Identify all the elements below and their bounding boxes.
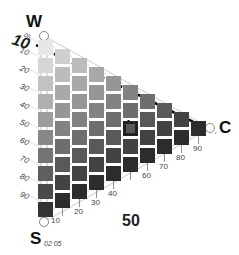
color-sample — [157, 139, 172, 154]
color-sample — [38, 94, 53, 109]
color-sample — [72, 184, 87, 199]
color-sample — [106, 166, 121, 181]
color-sample — [106, 112, 121, 127]
color-sample — [106, 148, 121, 163]
color-sample — [123, 139, 138, 154]
color-sample — [106, 130, 121, 145]
color-sample — [38, 58, 53, 73]
color-sample — [72, 130, 87, 145]
color-sample — [38, 148, 53, 163]
chromaticness-tick-label: 30 — [91, 198, 100, 207]
chromaticness-tick-label: 70 — [159, 162, 168, 171]
color-sample — [38, 166, 53, 181]
nc-triangle-diagram: W S C 10 50 02 05 05102030405060708090 1… — [0, 0, 239, 255]
color-sample — [140, 130, 155, 145]
color-sample — [55, 175, 70, 190]
chromaticness-pole — [206, 124, 215, 133]
color-sample — [72, 166, 87, 181]
color-sample — [174, 130, 189, 145]
color-sample — [38, 184, 53, 199]
color-sample — [89, 139, 104, 154]
chromaticness-tick-label: 80 — [176, 153, 185, 162]
chromaticness-tick-label: 60 — [142, 171, 151, 180]
color-sample — [72, 58, 87, 73]
color-sample — [89, 121, 104, 136]
color-sample — [72, 94, 87, 109]
chromaticness-tick-label: 40 — [108, 189, 117, 198]
chromaticness-tick-label: 90 — [193, 144, 202, 153]
highlighted-color-sample — [123, 121, 138, 136]
color-sample — [55, 85, 70, 100]
color-sample — [55, 49, 70, 64]
color-sample — [123, 103, 138, 118]
s-small-ticks: 02 05 — [44, 240, 62, 247]
color-sample — [106, 76, 121, 91]
color-sample — [140, 112, 155, 127]
color-sample — [157, 121, 172, 136]
color-sample — [55, 121, 70, 136]
color-sample — [89, 175, 104, 190]
color-sample — [38, 112, 53, 127]
color-sample — [106, 94, 121, 109]
color-sample — [123, 85, 138, 100]
color-sample — [38, 76, 53, 91]
color-sample — [89, 157, 104, 172]
color-sample — [55, 67, 70, 82]
whiteness-axis-label: W — [26, 12, 42, 32]
color-sample — [55, 103, 70, 118]
color-sample — [89, 67, 104, 82]
color-sample — [89, 103, 104, 118]
color-sample — [38, 40, 53, 55]
color-sample — [174, 112, 189, 127]
color-sample — [123, 157, 138, 172]
color-sample — [157, 103, 172, 118]
color-sample — [38, 130, 53, 145]
color-sample — [72, 148, 87, 163]
blackness-axis-label: S — [30, 229, 41, 249]
chromaticness-tick-label: 20 — [74, 207, 83, 216]
color-sample — [55, 157, 70, 172]
color-sample — [140, 94, 155, 109]
color-sample — [55, 193, 70, 208]
chromaticness-axis-label: C — [219, 118, 231, 138]
color-sample — [89, 85, 104, 100]
color-sample — [38, 202, 53, 217]
color-sample — [140, 148, 155, 163]
chromaticness-tick-label: 10 — [51, 216, 60, 225]
color-sample — [191, 121, 206, 136]
blackness-pole — [40, 218, 49, 227]
color-sample — [72, 76, 87, 91]
chromaticness-50-label: 50 — [122, 212, 140, 230]
color-sample — [72, 112, 87, 127]
color-sample — [55, 139, 70, 154]
